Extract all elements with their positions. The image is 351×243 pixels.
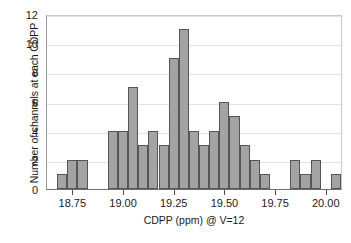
y-axis-tick-label: 0 [32, 184, 38, 196]
histogram-bar [250, 160, 260, 189]
plot-area [46, 15, 342, 190]
histogram-bar [57, 174, 67, 189]
chart-figure: Number of channels at each CDPP 02468101… [0, 0, 351, 243]
histogram-bar [199, 145, 209, 189]
histogram-bar [138, 145, 148, 189]
histogram-bar [159, 145, 169, 189]
y-axis-tick-label: 10 [26, 38, 38, 50]
x-axis-tick-mark [224, 190, 225, 195]
histogram-bar [169, 58, 179, 189]
y-axis-tick-labels: 024681012 [0, 0, 44, 243]
y-axis-tick-label: 8 [32, 67, 38, 79]
x-axis-tick-mark [326, 190, 327, 195]
x-axis-tick-label: 19.50 [211, 197, 239, 209]
x-axis-tick-mark [174, 190, 175, 195]
histogram-bar [179, 29, 189, 189]
histogram-bar [229, 116, 239, 189]
histogram-bar [67, 160, 77, 189]
x-axis-title: CDPP (ppm) @ V=12 [46, 214, 342, 226]
x-axis-tick-label: 18.75 [59, 197, 87, 209]
x-axis-tick-label: 19.00 [109, 197, 137, 209]
histogram-bar [290, 160, 300, 189]
histogram-bar [148, 131, 158, 189]
x-axis-tick-label: 19.75 [261, 197, 289, 209]
histogram-bar [128, 87, 138, 189]
histogram-bar [300, 174, 310, 189]
histogram-bar [240, 145, 250, 189]
histogram-bar [189, 131, 199, 189]
y-axis-tick-label: 6 [32, 97, 38, 109]
x-axis-tick-mark [275, 190, 276, 195]
histogram-bar [219, 102, 229, 190]
y-axis-tick-label: 2 [32, 155, 38, 167]
x-axis-tick-mark [72, 190, 73, 195]
x-axis-tick-label: 19.25 [160, 197, 188, 209]
histogram-bar [209, 131, 219, 189]
histogram-bar [311, 160, 321, 189]
histogram-bar [260, 174, 270, 189]
x-axis-tick-label: 20.00 [312, 197, 340, 209]
histogram-bar [77, 160, 87, 189]
x-axis-tick-mark [123, 190, 124, 195]
y-axis-tick-label: 12 [26, 9, 38, 21]
histogram-bars [47, 16, 341, 189]
histogram-bar [108, 131, 118, 189]
histogram-bar [118, 131, 128, 189]
y-axis-tick-label: 4 [32, 126, 38, 138]
histogram-bar [331, 174, 341, 189]
